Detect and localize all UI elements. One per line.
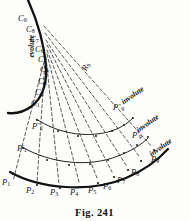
point-marker: [77, 135, 79, 137]
figure-caption: Fig. 241: [0, 207, 189, 218]
involute-point-label-1: P1: [2, 178, 10, 187]
point-marker: [12, 173, 14, 175]
evolute-point-label-6: C4: [40, 65, 49, 74]
involute-point-label-6: P6: [103, 182, 111, 191]
point-marker: [57, 130, 59, 132]
point-marker: [59, 187, 61, 189]
involute-point-label-3: P3: [50, 188, 58, 197]
evolute-point-label-4: C6: [35, 45, 44, 54]
evolute-point-label-7: C3: [38, 77, 47, 86]
figure-241: C9C8C7C6C5C4C3C2C1P1P2P3P4P5P6P7P8P9P′1P…: [0, 0, 189, 221]
point-marker: [79, 186, 81, 188]
involute-point-label-10: P′1: [17, 144, 27, 153]
point-marker: [113, 176, 115, 178]
point-marker: [123, 124, 125, 126]
involute-point-label-2: P2: [26, 186, 34, 195]
involute-point-label-5: P5: [88, 186, 96, 195]
point-marker: [132, 117, 134, 119]
evolute-point-label-1: C9: [18, 14, 27, 23]
point-marker: [36, 184, 38, 186]
point-marker: [123, 152, 125, 154]
point-marker: [97, 182, 99, 184]
point-marker: [136, 144, 138, 146]
evolute-point-label-9: C1: [31, 99, 40, 108]
point-marker: [68, 164, 70, 166]
involute-outer-curve: [10, 149, 168, 187]
point-marker: [95, 135, 97, 137]
point-marker: [107, 159, 109, 161]
point-marker: [140, 160, 142, 162]
involute-middle-curve: [22, 138, 148, 163]
evolute-point-label-5: C5: [38, 55, 47, 64]
point-marker: [127, 169, 129, 171]
radius-line-6: [47, 45, 112, 172]
point-marker: [111, 130, 113, 132]
involute-point-label-8: P8: [131, 168, 139, 177]
evolute-point-label-8: C2: [35, 88, 44, 97]
involute-inner-curve: [36, 118, 133, 134]
point-marker: [147, 136, 149, 138]
involute-point-label-12: P″1: [32, 122, 43, 131]
point-marker: [89, 163, 91, 165]
curve-name-label-1: evolute: [27, 35, 36, 57]
involute-point-label-7: P7: [117, 176, 125, 185]
involute-point-label-4: P4: [70, 188, 78, 197]
point-marker: [46, 159, 48, 161]
evolute-point-label-2: C8: [26, 25, 35, 34]
